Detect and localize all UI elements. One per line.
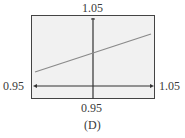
chart-caption: (D) bbox=[84, 119, 101, 131]
x-right-label: 1.05 bbox=[159, 80, 180, 92]
y-bottom-label: 0.95 bbox=[81, 102, 102, 114]
y-top-label: 1.05 bbox=[82, 2, 103, 14]
x-left-label: 0.95 bbox=[3, 80, 24, 92]
x-axis-right-arrow-icon bbox=[150, 84, 154, 88]
x-axis-left-arrow-icon bbox=[33, 84, 37, 88]
